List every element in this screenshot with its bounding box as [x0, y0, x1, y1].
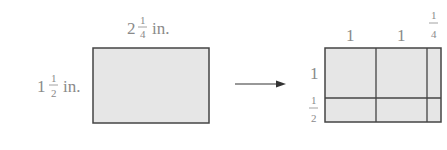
column-label-3-num: 1 — [431, 9, 437, 21]
arrow-right-icon — [235, 81, 286, 88]
width-den: 4 — [140, 28, 146, 40]
row-label-2-den: 2 — [311, 112, 317, 124]
column-label-1: 1 — [346, 26, 355, 45]
row-label-2-num: 1 — [311, 94, 317, 106]
width-unit: in. — [152, 19, 169, 38]
height-whole: 1 — [37, 77, 46, 96]
row-label-1: 1 — [310, 64, 319, 83]
width-label: 2 1 4 in. — [127, 14, 169, 40]
row-label-2: 1 2 — [309, 94, 318, 124]
height-num: 1 — [51, 72, 57, 84]
width-num: 1 — [140, 14, 146, 26]
column-label-2: 1 — [397, 26, 406, 45]
height-den: 2 — [51, 87, 57, 99]
partition-outline — [325, 48, 441, 122]
height-unit: in. — [63, 77, 80, 96]
height-label: 1 1 2 in. — [37, 72, 80, 99]
column-label-3-den: 4 — [431, 28, 437, 40]
original-rectangle — [93, 48, 209, 123]
width-whole: 2 — [127, 19, 136, 38]
area-model-diagram: 2 1 4 in. 1 1 2 in. 1 1 1 4 1 1 2 — [0, 0, 447, 150]
partitioned-rectangle — [325, 48, 441, 122]
column-label-3: 1 4 — [429, 9, 438, 40]
